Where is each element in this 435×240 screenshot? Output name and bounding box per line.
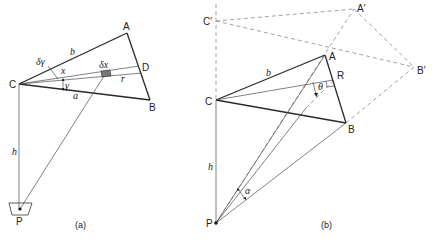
edge-CpBp: [216, 21, 414, 67]
panel-a: A B C D P b x γ a r h δγ δx (a): [9, 21, 156, 230]
edge-CB-b: [216, 100, 346, 123]
label-A-a: A: [123, 21, 130, 32]
alpha-arrow-down: [243, 197, 246, 200]
caption-a: (a): [75, 220, 86, 230]
label-r-a: r: [121, 73, 125, 84]
edge-ApBp: [354, 9, 414, 67]
point-P-b: [214, 221, 218, 225]
caption-b: (b): [321, 220, 332, 230]
ray-P-A: [216, 55, 325, 223]
label-delta-x: δx: [99, 59, 109, 70]
proj-B-Bp: [346, 67, 414, 123]
label-h-a: h: [12, 146, 17, 157]
label-a-a: a: [73, 90, 78, 101]
label-P-a: P: [16, 216, 23, 227]
ray-P-B: [216, 123, 346, 223]
label-C-b: C: [205, 96, 212, 107]
shaded-element-delta-x: [101, 70, 111, 77]
edge-CB: [19, 84, 150, 100]
panel-b: C′ A′ B′ A B C R P b h θ α (b): [203, 3, 426, 230]
line-P-to-element: [20, 76, 104, 209]
label-Ap: A′: [357, 3, 366, 14]
line-C-R: [216, 80, 333, 100]
label-R: R: [337, 70, 344, 81]
label-D-a: D: [142, 62, 149, 73]
label-B-b: B: [348, 124, 355, 135]
label-A-b: A: [329, 51, 336, 62]
edge-AB-b: [325, 55, 346, 123]
label-gamma-a: γ: [65, 80, 70, 91]
label-alpha: α: [245, 185, 251, 196]
point-P-a: [18, 207, 21, 210]
edge-CpAp: [216, 9, 354, 21]
label-delta-gamma: δγ: [36, 56, 46, 67]
label-x-a: x: [60, 65, 66, 76]
label-b-b: b: [266, 67, 271, 78]
figure-diagram: A B C D P b x γ a r h δγ δx (a): [0, 0, 435, 240]
label-theta: θ: [318, 81, 323, 92]
label-P-b: P: [206, 218, 213, 229]
label-C-a: C: [9, 79, 16, 90]
label-h-b: h: [208, 161, 213, 172]
label-Bp: B′: [417, 65, 426, 76]
label-B-a: B: [149, 102, 156, 113]
label-b-a: b: [70, 46, 75, 57]
ray-P-R: [216, 108, 306, 223]
label-Cp: C′: [203, 16, 212, 27]
